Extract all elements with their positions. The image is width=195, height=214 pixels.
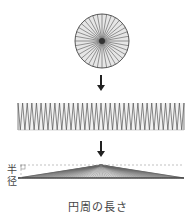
circle-area-diagram: 半径 円周の長さ	[0, 0, 195, 214]
sectored-circle	[75, 14, 129, 68]
circumference-label: 円周の長さ	[0, 198, 195, 214]
sector-triangle	[18, 165, 184, 178]
diagram-canvas	[0, 0, 195, 214]
rearranged-sector-strip	[18, 103, 184, 130]
radius-label: 半径	[6, 164, 18, 188]
